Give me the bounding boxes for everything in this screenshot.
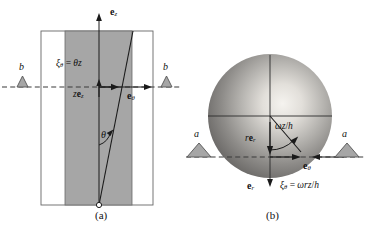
label-b-right: b xyxy=(163,62,168,72)
label-b-left: b xyxy=(19,62,24,72)
support-triangle-left-a xyxy=(187,143,211,157)
label-e-r-panel-b: er xyxy=(247,181,254,192)
support-triangle-right-b xyxy=(161,76,172,87)
support-triangle-left-b xyxy=(17,76,28,87)
e-r-arrowhead xyxy=(267,179,273,187)
caption-panel-a: (a) xyxy=(95,209,107,221)
label-xi-theta-panel-a: ξθ = θz xyxy=(56,59,82,69)
caption-panel-b: (b) xyxy=(266,209,279,221)
label-r-e-r: rer xyxy=(245,134,255,144)
panel-a-graphics xyxy=(0,0,184,232)
panel-b-graphics xyxy=(184,0,368,232)
label-e-z-panel-a: ez xyxy=(110,7,117,18)
label-z-e-z-panel-a: zez xyxy=(73,90,83,100)
label-theta-angle-panel-a: θ xyxy=(101,130,106,140)
label-e-theta-panel-b: eθ xyxy=(303,161,311,172)
figure-root: ez ξθ = θz zez eθ θ b b (a) xyxy=(0,0,368,232)
label-xi-theta-panel-b: ξθ = ωrz/h xyxy=(280,181,319,191)
support-triangle-right-a xyxy=(335,143,359,157)
e-z-arrowhead xyxy=(96,13,102,21)
pivot-point-marker xyxy=(96,202,101,207)
label-omega-z-over-h: ωz/h xyxy=(275,122,293,132)
label-e-theta-panel-a: eθ xyxy=(127,91,135,102)
label-a-left: a xyxy=(194,129,199,139)
label-a-right: a xyxy=(342,129,347,139)
